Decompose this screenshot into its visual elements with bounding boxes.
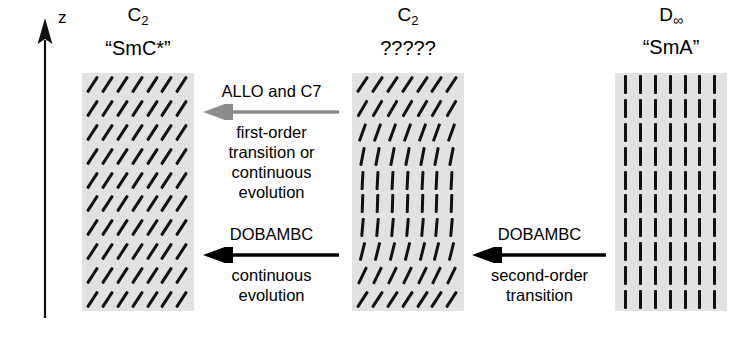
director-rod (684, 242, 687, 261)
director-rod (391, 194, 395, 213)
arrow-bottom-label-dobambc-right: second-ordertransition (472, 265, 607, 305)
arrow-caption-line: evolution (203, 285, 340, 305)
director-rod (713, 171, 716, 190)
director-rod (373, 123, 382, 142)
director-rod (116, 195, 129, 213)
arrow-glyph-dobambc-right (472, 247, 607, 263)
smectic-layer (352, 168, 464, 192)
director-rod (116, 147, 129, 165)
arrow-caption-line: continuous (203, 162, 340, 182)
director-rod (374, 242, 382, 261)
director-rod (654, 266, 657, 285)
director-rod (160, 243, 173, 261)
smectic-layer (615, 287, 727, 311)
director-rod (713, 266, 716, 285)
director-rod (146, 76, 159, 94)
phase-label-unknown: ????? (352, 35, 464, 61)
director-rod (684, 147, 687, 166)
smectic-layer (615, 73, 727, 97)
smectic-layer (82, 287, 194, 311)
director-rod (86, 219, 99, 237)
director-rod (654, 75, 657, 94)
smectic-layer (352, 216, 464, 240)
director-rod (86, 100, 99, 118)
director-rod (390, 170, 394, 189)
director-rod (101, 290, 114, 308)
z-axis-svg (34, 18, 56, 318)
director-rod (401, 290, 414, 308)
director-rod (698, 266, 701, 285)
director-rod (450, 170, 454, 189)
director-rod (447, 123, 456, 142)
smectic-layer (352, 192, 464, 216)
director-rod (160, 266, 173, 284)
director-rod (431, 266, 442, 284)
smectic-layer (82, 97, 194, 121)
director-rod (175, 243, 188, 261)
director-rod (101, 219, 114, 237)
director-rod (698, 171, 701, 190)
director-rod (131, 219, 144, 237)
director-rod (654, 147, 657, 166)
director-rod (146, 219, 159, 237)
smectic-layer (615, 168, 727, 192)
director-rod (639, 266, 642, 285)
director-rod (434, 147, 441, 166)
director-rod (446, 266, 457, 284)
director-rod (713, 75, 716, 94)
director-rod (639, 171, 642, 190)
director-rod (86, 243, 99, 261)
director-rod (698, 75, 701, 94)
director-rod (624, 75, 627, 94)
director-rod (654, 171, 657, 190)
director-rod (684, 123, 687, 142)
director-rod (358, 123, 367, 142)
director-rod (713, 290, 716, 309)
director-rod (101, 100, 114, 118)
smectic-block-unknown (352, 73, 464, 311)
director-rod (86, 76, 99, 94)
director-rod (389, 242, 397, 261)
director-rod (390, 218, 395, 237)
director-rod (160, 290, 173, 308)
director-rod (654, 123, 657, 142)
director-rod (359, 147, 366, 166)
director-rod (654, 242, 657, 261)
director-rod (419, 147, 426, 166)
phase-label-sma: “SmA” (615, 34, 727, 60)
director-rod (401, 76, 414, 93)
symmetry-group-sma: D∞ (615, 4, 727, 31)
director-rod (86, 124, 99, 142)
director-rod (371, 290, 384, 308)
director-rod (131, 266, 144, 284)
column-header-unknown: C2 ????? (352, 4, 464, 61)
director-rod (639, 242, 642, 261)
director-rod (403, 123, 412, 142)
director-rod (417, 266, 428, 284)
director-rod (698, 99, 701, 118)
director-rod (160, 100, 173, 118)
director-rod (374, 147, 381, 166)
director-rod (86, 195, 99, 213)
director-rod (698, 290, 701, 309)
arrow-glyph-allo-c7 (203, 104, 340, 120)
director-rod (448, 242, 456, 261)
director-rod (713, 123, 716, 142)
director-rod (445, 290, 458, 308)
director-rod (698, 147, 701, 166)
director-rod (401, 100, 413, 118)
smectic-layer (615, 192, 727, 216)
director-rod (684, 290, 687, 309)
director-rod (146, 147, 159, 165)
director-rod (684, 75, 687, 94)
director-rod (116, 266, 129, 284)
phase-transition-diagram: z C2 “SmC*” C2 ????? D∞ “SmA” ALLO and C… (0, 0, 747, 337)
director-rod (160, 124, 173, 142)
smectic-layer (82, 192, 194, 216)
director-rod (403, 242, 411, 261)
arrow-caption-line: first-order (203, 122, 340, 142)
arrow-top-label-allo-c7: ALLO and C7 (203, 81, 340, 101)
director-rod (356, 76, 369, 93)
director-rod (175, 219, 188, 237)
director-rod (101, 171, 114, 189)
